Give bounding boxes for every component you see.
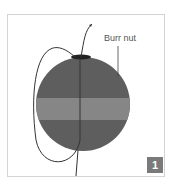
- callout-label: Burr nut: [104, 33, 136, 43]
- wire-lead: [81, 24, 92, 57]
- wire-tail: [76, 150, 78, 176]
- step-badge: 1: [147, 157, 163, 173]
- sphere-with-wire-illustration: [0, 0, 178, 180]
- sphere-band: [30, 98, 140, 120]
- sphere: [30, 57, 140, 151]
